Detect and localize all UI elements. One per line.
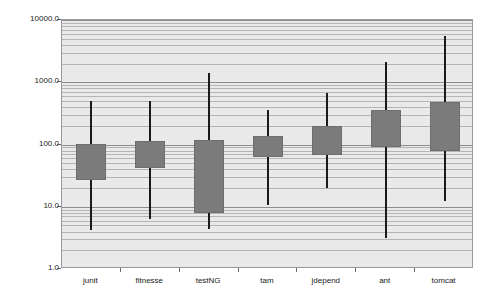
- box-plot-chart: Lines per file 10000.01000.0100.010.01.0…: [0, 0, 487, 300]
- y-tick-mark: [57, 144, 61, 145]
- x-tick-mark: [355, 268, 356, 272]
- y-tick-mark: [57, 268, 61, 269]
- y-tick-label: 100.0: [0, 140, 59, 148]
- x-tick-mark: [296, 268, 297, 272]
- plot-area: [61, 19, 473, 268]
- box-rect: [430, 102, 460, 150]
- x-tick-mark: [414, 268, 415, 272]
- y-tick-mark: [57, 206, 61, 207]
- y-tick-label: 1000.0: [0, 77, 59, 85]
- y-tick-label: 1.0: [0, 264, 59, 272]
- x-tick-label-tomcat: tomcat: [404, 276, 484, 286]
- x-tick-mark: [120, 268, 121, 272]
- y-tick-label: 10.0: [0, 202, 59, 210]
- y-tick-label: 10000.0: [0, 15, 59, 23]
- y-tick-mark: [57, 81, 61, 82]
- x-tick-mark: [238, 268, 239, 272]
- box-plot-series-tomcat: [62, 20, 472, 267]
- y-tick-mark: [57, 19, 61, 20]
- x-tick-mark: [179, 268, 180, 272]
